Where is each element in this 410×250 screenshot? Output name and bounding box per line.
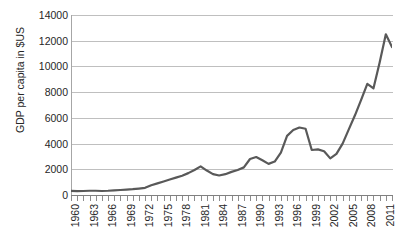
x-axis-tick-label: 1999 xyxy=(310,204,322,227)
x-axis-tick-label: 1987 xyxy=(236,204,248,227)
x-axis-tick-label: 2005 xyxy=(347,204,359,227)
x-axis-tick-label: 2011 xyxy=(384,204,396,227)
x-axis-tick-label: 2002 xyxy=(328,204,340,227)
x-axis-tick-label: 1990 xyxy=(254,204,266,227)
x-axis-tick-label: 1975 xyxy=(162,204,174,227)
x-axis-tick-label: 1960 xyxy=(69,204,81,227)
x-axis-tick-label: 1969 xyxy=(125,204,137,227)
x-axis-tick-label: 1966 xyxy=(106,204,118,227)
x-axis-tick-labels: 1960196319661969197219751978198119841987… xyxy=(0,0,410,250)
x-axis-tick-label: 1963 xyxy=(88,204,100,227)
x-axis-tick-label: 1993 xyxy=(273,204,285,227)
gdp-per-capita-line-chart: GDP per capita in $US 140001200010000800… xyxy=(0,0,410,250)
x-axis-tick-label: 1972 xyxy=(143,204,155,227)
x-axis-tick-label: 1978 xyxy=(180,204,192,227)
x-axis-tick-label: 1996 xyxy=(291,204,303,227)
x-axis-tick-label: 1981 xyxy=(199,204,211,227)
x-axis-tick-label: 1984 xyxy=(217,204,229,227)
x-axis-tick-label: 2008 xyxy=(365,204,377,227)
